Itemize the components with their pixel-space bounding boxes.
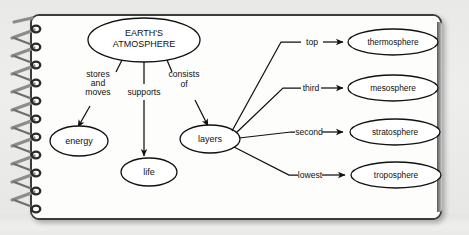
troposphere-label: troposphere [374, 170, 419, 180]
node-mesosphere: mesosphere [348, 75, 438, 101]
screenshot-stage: EARTH'S ATMOSPHERE stores and moves supp… [0, 0, 469, 235]
edge-second [239, 132, 343, 138]
root-label-line2: ATMOSPHERE [113, 39, 175, 49]
link-label-lowest: lowest [298, 170, 323, 180]
link-label-supports: supports [128, 87, 161, 97]
link-label-second: second [295, 127, 323, 137]
node-energy: energy [50, 126, 108, 156]
spiral-wire-coils [12, 18, 40, 212]
node-troposphere: troposphere [351, 162, 441, 188]
link-label-consists: consists [168, 69, 199, 79]
layers-label: layers [198, 134, 223, 144]
link-label-top: top [306, 37, 318, 47]
node-layers: layers [180, 125, 240, 153]
mesosphere-label: mesosphere [370, 83, 416, 93]
life-label: life [143, 167, 155, 177]
link-label-of: of [180, 79, 188, 89]
node-life: life [121, 158, 177, 186]
edge-lowest [234, 147, 345, 175]
node-stratosphere: stratosphere [350, 119, 440, 145]
edge-top [232, 42, 343, 131]
link-label-third: third [303, 83, 320, 93]
node-thermosphere: thermosphere [348, 29, 438, 55]
node-earths-atmosphere: EARTH'S ATMOSPHERE [88, 18, 200, 62]
energy-label: energy [65, 136, 93, 146]
spiral-binding [8, 8, 52, 220]
link-label-moves: moves [85, 87, 110, 97]
stratosphere-label: stratosphere [372, 127, 419, 137]
thermosphere-label: thermosphere [367, 37, 419, 47]
concept-map-diagram: EARTH'S ATMOSPHERE stores and moves supp… [30, 14, 442, 220]
root-label-line1: EARTH'S [125, 28, 163, 38]
